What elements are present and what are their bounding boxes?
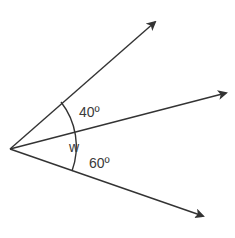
angle-arc (61, 102, 76, 171)
angle-label-60: 60º (89, 155, 110, 171)
angle-label-w: w (68, 139, 80, 155)
angle-label-40: 40º (79, 104, 100, 120)
angle-diagram: 40º w 60º (0, 0, 235, 238)
